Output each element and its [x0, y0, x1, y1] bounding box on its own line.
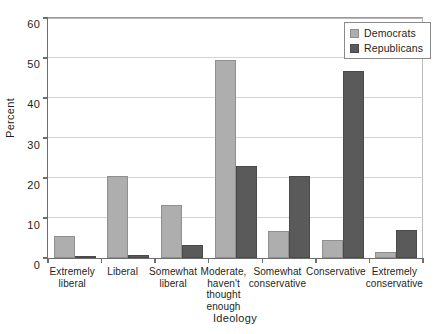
bar-democrats-3[interactable]: [215, 60, 236, 258]
bar-group: [48, 18, 102, 258]
x-tick-7: [422, 258, 423, 263]
bar-group: [209, 18, 263, 258]
x-tick-1: [101, 258, 102, 263]
bar-republicans-5[interactable]: [343, 71, 364, 258]
bar-group: [155, 18, 209, 258]
x-axis-label-2: Somewhatliberal: [148, 266, 198, 312]
x-axis-label-line: Liberal: [97, 266, 147, 278]
legend-label-republicans: Republicans: [364, 42, 423, 54]
x-tick-5: [315, 258, 316, 263]
bar-chart: Percent 0102030405060 ExtremelyliberalLi…: [0, 0, 440, 334]
x-axis-label-5: Conservative: [306, 266, 366, 312]
x-tick-3: [208, 258, 209, 263]
x-axis-title: Ideology: [47, 312, 423, 324]
x-axis-label-3: Moderate,haven'tthoughtenough: [198, 266, 248, 312]
x-axis-label-line: enough: [198, 301, 248, 313]
x-tick-4: [262, 258, 263, 263]
bar-republicans-3[interactable]: [236, 166, 257, 258]
chart-legend: Democrats Republicans: [344, 22, 431, 59]
x-axis-label-line: thought: [198, 289, 248, 301]
x-axis-label-line: Somewhat: [249, 266, 306, 278]
x-axis-label-line: conservative: [366, 278, 423, 290]
bar-democrats-1[interactable]: [107, 176, 128, 258]
legend-label-democrats: Democrats: [364, 27, 416, 39]
bar-republicans-1[interactable]: [128, 255, 149, 258]
bar-republicans-4[interactable]: [289, 176, 310, 258]
legend-item-democrats: Democrats: [350, 27, 423, 39]
bar-democrats-2[interactable]: [161, 205, 182, 258]
bar-group: [262, 18, 316, 258]
x-axis-label-line: Somewhat: [148, 266, 198, 278]
x-axis-label-line: liberal: [148, 278, 198, 290]
bar-republicans-6[interactable]: [396, 230, 417, 258]
x-axis-label-line: Extremely: [366, 266, 423, 278]
x-axis-label-line: Moderate,: [198, 266, 248, 278]
legend-swatch-republicans: [350, 44, 359, 53]
bar-democrats-4[interactable]: [268, 231, 289, 258]
x-tick-0: [47, 258, 48, 263]
bar-group: [102, 18, 156, 258]
x-axis-label-6: Extremelyconservative: [366, 266, 423, 312]
x-tick-2: [154, 258, 155, 263]
legend-item-republicans: Republicans: [350, 42, 423, 54]
bar-democrats-5[interactable]: [322, 240, 343, 258]
bar-republicans-2[interactable]: [182, 245, 203, 258]
x-axis-label-0: Extremelyliberal: [47, 266, 97, 312]
bar-republicans-0[interactable]: [75, 256, 96, 258]
x-axis-labels: ExtremelyliberalLiberalSomewhatliberalMo…: [47, 266, 423, 312]
x-axis-label-line: haven't: [198, 278, 248, 290]
x-axis-label-line: liberal: [47, 278, 97, 290]
x-axis-label-line: Extremely: [47, 266, 97, 278]
bar-democrats-6[interactable]: [375, 252, 396, 258]
x-axis-label-line: Conservative: [306, 266, 366, 278]
x-tick-6: [369, 258, 370, 263]
x-axis-label-line: conservative: [249, 278, 306, 290]
legend-swatch-democrats: [350, 29, 359, 38]
x-axis-label-4: Somewhatconservative: [249, 266, 306, 312]
x-axis-label-1: Liberal: [97, 266, 147, 312]
y-axis-title: Percent: [4, 98, 16, 138]
bar-democrats-0[interactable]: [54, 236, 75, 258]
